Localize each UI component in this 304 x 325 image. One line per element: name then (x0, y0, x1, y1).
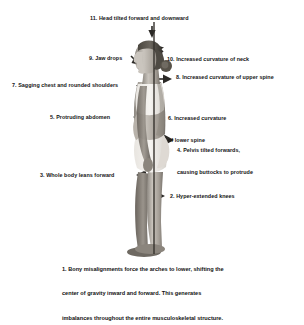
annotation-label-11: 11. Head tilted forward and downward (90, 15, 189, 22)
annotation-label-5: 5. Protruding abdomen (50, 114, 110, 121)
caption-line-2: center of gravity inward and forward. Th… (62, 289, 262, 297)
annotation-label-3: 3. Whole body leans forward (40, 172, 114, 179)
annotation-label-2: 2. Hyper-extended knees (170, 193, 235, 200)
caption-block: 1. Bony misalignments force the arches t… (62, 249, 262, 325)
annotation-label-9: 9. Jaw drops (89, 55, 122, 62)
caption-line-3: imbalances throughout the entire musculo… (62, 314, 262, 322)
annotation-label-6-line1: 6. Increased curvature (168, 115, 226, 122)
caption-line-1: 1. Bony misalignments force the arches t… (62, 265, 262, 273)
legs-shape (135, 172, 163, 250)
annotation-label-4-line2: causing buttocks to protrude (177, 169, 253, 176)
annotation-label-10: 10. Increased curvature of neck (167, 56, 249, 63)
annotation-label-4-line1: 4. Pelvis tilted forwards, (177, 147, 253, 154)
annotation-label-4: 4. Pelvis tilted forwards, causing butto… (177, 132, 253, 184)
annotation-label-7: 7. Sagging chest and rounded shoulders (12, 82, 118, 89)
annotation-label-8: 8. Increased curvature of upper spine (176, 74, 274, 81)
